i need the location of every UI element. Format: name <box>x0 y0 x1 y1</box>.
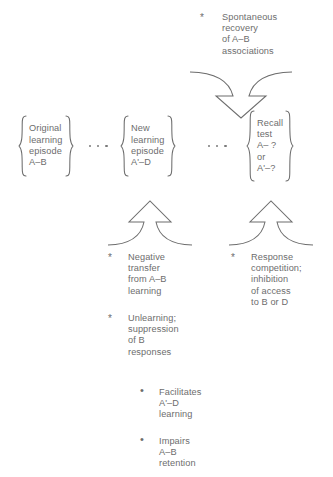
ellipsis-dot <box>105 145 107 147</box>
right-brace-icon <box>285 110 294 182</box>
stage-original-learning-episode: Original learning episode A–B <box>18 115 74 177</box>
left-brace-icon <box>120 115 129 177</box>
stage-recall-test: Recall test A– ? or A'–? <box>246 110 294 182</box>
ellipsis-dot <box>224 145 226 147</box>
outcome-2-marker: • <box>140 434 144 445</box>
stage-new-learning-episode: New learning episode A'–D <box>120 115 176 177</box>
stage-recall-test-text: Recall test A– ? or A'–? <box>255 118 285 174</box>
right-note-1-text: Response competition; inhibition of acce… <box>251 252 333 308</box>
ellipsis-dot <box>97 145 99 147</box>
ellipsis-dot <box>89 145 91 147</box>
left-brace-icon <box>18 115 27 177</box>
left-brace-icon <box>246 110 255 182</box>
left-note-1-text: Negative transfer from A–B learning <box>128 252 208 297</box>
top-note-marker: * <box>200 12 204 23</box>
right-brace-icon <box>65 115 74 177</box>
diagram-canvas: * Spontaneous recovery of A–B associatio… <box>0 0 333 477</box>
left-note-2-marker: * <box>108 313 112 324</box>
stage-new-learning-episode-text: New learning episode A'–D <box>129 123 167 168</box>
outcome-1-marker: • <box>140 385 144 396</box>
right-brace-icon <box>167 115 176 177</box>
negative-transfer-arrow <box>106 199 194 247</box>
top-note-text: Spontaneous recovery of A–B associations <box>222 12 322 57</box>
right-note-1-marker: * <box>231 252 235 263</box>
left-note-1-marker: * <box>108 252 112 263</box>
outcome-2-text: Impairs A–B retention <box>159 436 249 470</box>
ellipsis-right <box>208 145 227 147</box>
left-note-2-text: Unlearning; suppression of B responses <box>128 313 210 358</box>
stage-original-learning-episode-text: Original learning episode A–B <box>27 123 65 168</box>
outcome-1-text: Facilitates A'–D learning <box>159 387 249 421</box>
ellipsis-left <box>89 145 108 147</box>
ellipsis-dot <box>208 145 210 147</box>
response-competition-arrow <box>227 199 315 247</box>
ellipsis-dot <box>216 145 218 147</box>
